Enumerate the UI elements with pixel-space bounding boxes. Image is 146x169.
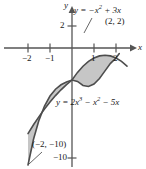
- parabola-curve: [28, 55, 127, 133]
- y-tick-label--10: −10: [53, 153, 67, 162]
- x-axis-arrow: [130, 45, 137, 52]
- x-tick-label--1: −1: [45, 54, 55, 63]
- x-tick-label--2: −2: [22, 54, 32, 63]
- cubic-equation-prefix: y = 2x: [56, 97, 79, 107]
- x-tick-label-2: 2: [113, 54, 118, 63]
- leader-line-parabola: [84, 18, 92, 33]
- cubic-equation-suffix: − 5x: [100, 97, 119, 107]
- parabola-equation-prefix: y = −x: [74, 5, 99, 15]
- point-label-top-right: (2, 2): [105, 17, 125, 26]
- y-tick-label-2: 2: [60, 21, 65, 30]
- parabola-equation-suffix: + 3x: [102, 5, 121, 15]
- y-axis-label: y: [64, 1, 68, 10]
- parabola-equation-label: y = −x2 + 3x: [74, 6, 121, 15]
- point-label-bottom-left: (−2, −10): [32, 140, 66, 149]
- cubic-equation-mid: − x: [82, 97, 97, 107]
- x-axis-label: x: [138, 43, 142, 52]
- x-tick-label-1: 1: [91, 54, 96, 63]
- figure-container: y x y = −x2 + 3x (2, 2) y = 2x3 − x2 − 5…: [0, 0, 146, 169]
- cubic-equation-label: y = 2x3 − x2 − 5x: [56, 98, 119, 107]
